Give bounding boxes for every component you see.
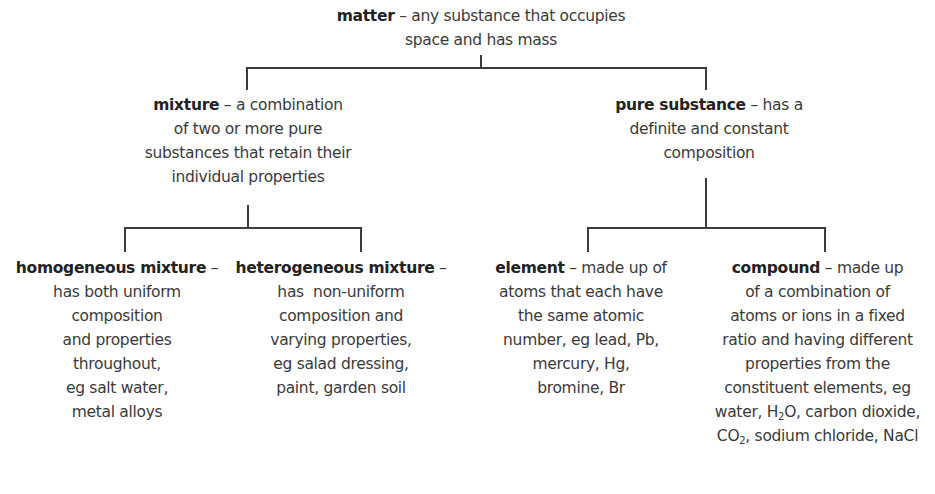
node-compound: compound – made up of a combination of a…	[700, 256, 935, 448]
term-pure-substance: pure substance	[615, 96, 746, 114]
node-element: element – made up of atoms that each hav…	[478, 256, 684, 400]
connector-pure-substance	[588, 178, 825, 252]
connector-matter	[247, 55, 706, 90]
term-element: element	[495, 259, 564, 277]
term-mixture: mixture	[153, 96, 219, 114]
node-pure-substance: pure substance – has a definite and cons…	[596, 93, 822, 165]
node-homogeneous-mixture: homogeneous mixture – has both uniform c…	[10, 256, 224, 424]
node-compound-line-water: water, H2O, carbon dioxide,	[700, 400, 935, 424]
term-matter: matter	[337, 7, 395, 25]
term-heterogeneous-mixture: heterogeneous mixture	[235, 259, 434, 277]
node-mixture-line-1: mixture – a combination	[130, 93, 366, 117]
term-homogeneous-mixture: homogeneous mixture	[16, 259, 206, 277]
node-element-line-1: element – made up of	[478, 256, 684, 280]
node-mixture: mixture – a combination of two or more p…	[130, 93, 366, 189]
node-homogeneous-line-1: homogeneous mixture –	[10, 256, 224, 280]
node-compound-line-co2: CO2, sodium chloride, NaCl	[700, 424, 935, 448]
node-heterogeneous-mixture: heterogeneous mixture – has non-uniform …	[230, 256, 452, 400]
node-matter-line-1: matter – any substance that occupies	[313, 4, 649, 28]
term-compound: compound	[732, 259, 821, 277]
node-heterogeneous-line-1: heterogeneous mixture –	[230, 256, 452, 280]
connector-mixture	[125, 205, 361, 252]
node-pure-substance-line-1: pure substance – has a	[596, 93, 822, 117]
node-matter: matter – any substance that occupies spa…	[313, 4, 649, 52]
node-compound-line-1: compound – made up	[700, 256, 935, 280]
